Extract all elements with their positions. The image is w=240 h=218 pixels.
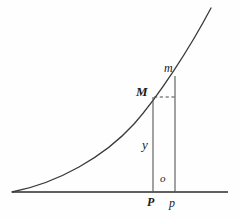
- label-point-m: m: [164, 62, 173, 74]
- label-point-M: M: [136, 85, 148, 98]
- figure-canvas: [0, 0, 240, 218]
- geometry-figure: M m y o P p: [0, 0, 240, 218]
- convex-curve: [12, 8, 211, 192]
- label-foot-P: P: [147, 196, 154, 208]
- label-ordinate-y: y: [142, 138, 148, 151]
- label-increment-o: o: [160, 173, 166, 184]
- label-foot-p: p: [169, 197, 175, 209]
